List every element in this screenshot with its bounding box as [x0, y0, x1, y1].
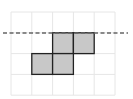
- shaded-cell: [53, 33, 74, 54]
- shaded-cell: [73, 33, 94, 54]
- shaded-cell: [32, 54, 53, 75]
- grid-diagram: [0, 0, 133, 99]
- shaded-cell: [53, 54, 74, 75]
- shaded-shape: [32, 33, 94, 75]
